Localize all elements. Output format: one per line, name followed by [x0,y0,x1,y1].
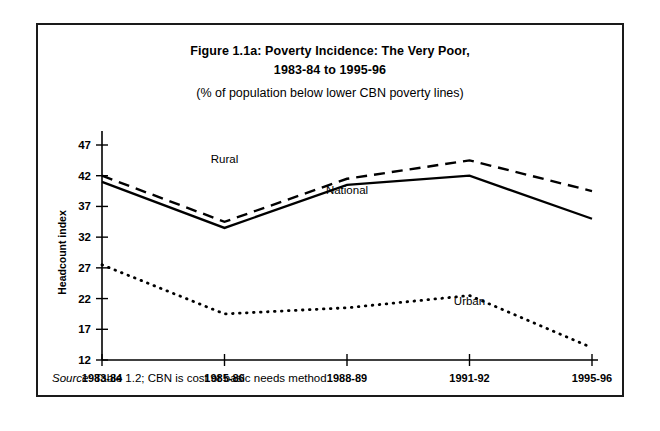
series-line-urban [102,265,592,348]
y-tick-label: 47 [78,139,91,151]
series-label-urban: Urban [454,295,485,307]
x-tick-label: 1991-92 [449,372,489,384]
chart-plot-area: 1217222732374247 1983-841985-861988-8919… [38,25,626,399]
y-tick-label: 42 [78,170,91,182]
series-label-national: National [326,184,368,196]
poverty-incidence-line-chart: 1217222732374247 1983-841985-861988-8919… [38,25,626,399]
y-tick-label: 17 [78,323,91,335]
y-axis-title: Headcount index [56,210,68,295]
y-tick-label: 32 [78,231,91,243]
y-axis: 1217222732374247 [78,131,108,366]
figure-frame: Figure 1.1a: Poverty Incidence: The Very… [36,23,624,397]
y-tick-label: 22 [78,293,91,305]
x-tick-label: 1995-96 [572,372,612,384]
source-text: : Table 1.2; CBN is cost of basic needs … [88,372,329,384]
series-annotations: RuralNationalUrban [211,153,485,306]
y-tick-label: 37 [78,200,91,212]
x-tick-label: 1988-89 [327,372,367,384]
y-tick-label: 12 [78,354,91,366]
source-label: Source [52,372,88,384]
source-note: Source: Table 1.2; CBN is cost of basic … [52,372,330,384]
series-label-rural: Rural [211,153,238,165]
y-tick-label: 27 [78,262,91,274]
